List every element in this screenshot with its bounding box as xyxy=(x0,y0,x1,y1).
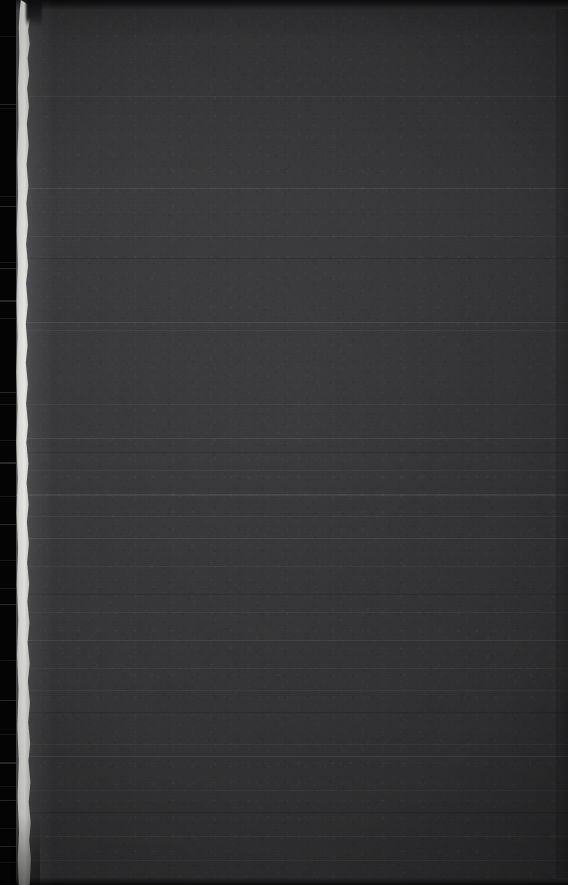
strip-tick xyxy=(0,762,16,764)
sensor-noise xyxy=(0,0,568,885)
strip-tick xyxy=(0,496,16,497)
strip-tick xyxy=(0,206,16,207)
strip-tick xyxy=(0,700,16,701)
strip-tick xyxy=(0,404,16,405)
strip-tick xyxy=(0,392,16,393)
band-top-notch xyxy=(26,0,42,26)
strip-tick xyxy=(0,786,16,787)
strip-tick xyxy=(0,300,16,302)
strip-tick xyxy=(0,108,16,109)
strip-tick xyxy=(0,196,16,197)
strip-tick xyxy=(0,604,16,605)
strip-tick xyxy=(0,588,16,589)
strip-tick xyxy=(0,104,16,105)
strip-tick xyxy=(0,462,16,464)
strip-tick xyxy=(0,734,16,735)
strip-tick xyxy=(0,560,16,561)
top-dark-band xyxy=(0,0,568,9)
photograph: Very dark, underexposed photograph. A fl… xyxy=(0,0,568,885)
strip-tick xyxy=(0,828,16,829)
strip-tick xyxy=(0,800,16,801)
strip-tick xyxy=(0,846,16,847)
strip-tick xyxy=(0,660,16,661)
left-black-strip xyxy=(0,0,16,885)
strip-tick xyxy=(0,318,16,319)
strip-tick xyxy=(0,524,16,525)
strip-tick xyxy=(0,862,16,863)
strip-tick xyxy=(0,268,16,269)
right-edge-line xyxy=(556,0,568,885)
strip-tick xyxy=(0,440,16,441)
bottom-dark-band xyxy=(0,878,568,885)
strip-tick xyxy=(0,262,16,263)
strip-tick xyxy=(0,36,16,37)
